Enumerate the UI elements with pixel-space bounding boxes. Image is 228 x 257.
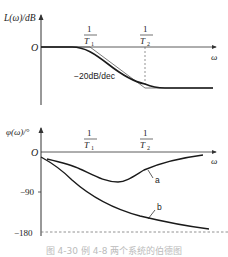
magnitude-corner2-num: 1 [143,24,148,34]
magnitude-curve [41,47,213,88]
phase-origin-label: O [31,147,38,158]
magnitude-corner1-den: T [84,36,90,46]
phase-curve-b [41,157,209,229]
phase-corner2-sub: 2 [147,145,150,151]
magnitude-corner2-sub: 2 [147,41,150,47]
phase-tick-90-label: −90 [20,187,35,197]
magnitude-plot: L(ω)/dB O ω 1 T 1 1 T 2 −20dB/dec [3,13,217,105]
curve-b-label: b [157,202,162,212]
phase-tick-180-label: −180 [14,228,33,238]
phase-x-label: ω [211,156,217,166]
curve-a-label: a [155,175,160,185]
phase-corner1-num: 1 [87,128,92,138]
magnitude-corner1-sub: 1 [91,41,94,47]
curve-a-leader [148,170,153,178]
curve-b-leader [148,210,155,219]
magnitude-corner2-den: T [140,36,146,46]
asymptote-line [41,47,213,88]
phase-corner2-den: T [140,140,146,150]
slope-label: −20dB/dec [74,71,116,81]
figure-caption: 图 4-30 例 4-8 两个系统的伯德图 [0,244,228,257]
magnitude-corner1-num: 1 [87,24,92,34]
magnitude-y-label: L(ω)/dB [3,13,36,24]
phase-plot: φ(ω)/° O ω −90 −180 1 T 1 1 T 2 a b [6,127,228,238]
phase-corner1-den: T [84,140,90,150]
phase-corner2-num: 1 [143,128,148,138]
phase-y-label: φ(ω)/° [6,127,30,137]
magnitude-origin-label: O [31,42,38,53]
magnitude-x-label: ω [211,52,217,62]
phase-corner1-sub: 1 [91,145,94,151]
